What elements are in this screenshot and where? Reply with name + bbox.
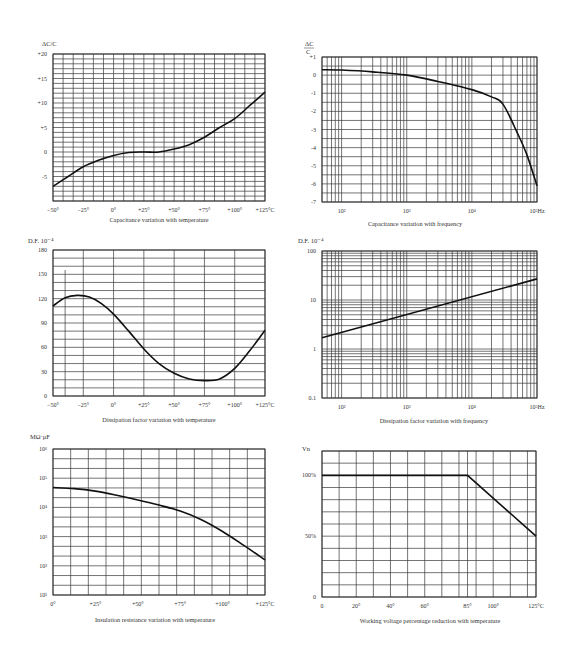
chart-capacitance-vs-frequency: 10²10³10⁴10⁵Hz+10-1-2-3-4-5-6-7 [310,54,545,214]
y-tick-label: 10³ [39,534,47,540]
data-curve [322,70,537,186]
datasheet-charts: −50°−25°0°+25°+50°+75°+100°+125°C+20+15+… [0,0,577,657]
x-tick-label: +125°C [256,601,275,607]
y-tick-label: 0.1 [309,395,317,401]
y-tick-label: -4 [311,145,316,151]
x-tick-label: 60° [421,603,430,609]
chart-df-vs-frequency: 10²10³10⁴10⁵Hz1001010.1 [307,248,545,410]
x-tick-label: +25° [138,402,150,408]
x-tick-label: 85° [463,603,472,609]
y-tick-label: 60 [41,344,47,350]
y-tick-label: 1 [313,346,316,352]
y-tick-label: 0 [44,393,47,399]
c5-y-axis-label: MΩ·μF [30,433,50,440]
c5-caption: Insulation resistance variation with tem… [95,616,215,623]
y-tick-label: 10² [39,563,47,569]
c2-y-axis-label-num: ΔC [305,40,314,47]
x-tick-label: +75° [174,601,186,607]
y-tick-label: 0 [313,594,316,600]
y-tick-label: -6 [311,181,316,187]
x-tick-label: 0 [321,603,324,609]
c3-y-axis-label: D.F. 10⁻⁴ [28,237,54,244]
data-curve [322,279,537,338]
x-tick-label: +25° [90,601,102,607]
x-tick-label: 10⁵Hz [529,208,544,214]
y-tick-label: -5 [311,163,316,169]
y-tick-label: 0 [44,149,47,155]
y-tick-label: +1 [310,54,316,60]
y-tick-label: 30 [41,369,47,375]
y-tick-label: -3 [311,127,316,133]
y-tick-label: 120 [38,296,47,302]
x-tick-label: 10² [338,404,346,410]
y-tick-label: -5 [42,174,47,180]
x-tick-label: −50° [47,402,59,408]
y-tick-label: +15 [38,76,47,82]
x-tick-label: +100° [227,207,242,213]
y-tick-label: 180 [38,247,47,253]
c1-y-axis-label: ΔC/C [42,40,57,47]
x-tick-label: −25° [77,207,89,213]
x-tick-label: 10² [338,208,346,214]
x-tick-label: +75° [199,402,211,408]
c4-y-axis-label: D.F. 10⁻⁴ [298,237,324,244]
y-tick-label: 10⁴ [39,504,47,510]
y-tick-label: 100 [307,248,316,254]
c6-caption: Working voltage percentage reduction wit… [360,617,501,624]
c2-caption: Capacitance variation with frequency [368,220,463,227]
x-tick-label: +100° [227,402,242,408]
x-tick-label: +125°C [256,207,275,213]
x-tick-label: −25° [77,402,89,408]
y-tick-label: +5 [41,125,47,131]
plot-frame [322,251,537,398]
x-tick-label: +75° [199,207,211,213]
x-tick-label: +50° [168,402,180,408]
x-tick-label: +100° [215,601,230,607]
x-tick-label: +50° [132,601,144,607]
c4-caption: Dissipation factor variation with freque… [380,417,489,424]
y-tick-label: 10⁵ [39,475,47,481]
x-tick-label: 0° [111,402,117,408]
y-tick-label: 10¹ [39,592,47,598]
x-tick-label: 100° [487,603,499,609]
c3-caption: Dissipation factor variation with temper… [102,416,216,423]
y-tick-label: -2 [311,108,316,114]
x-tick-label: 20° [352,603,361,609]
c2-y-axis-label-den: C [306,48,310,55]
y-tick-label: 10 [310,297,316,303]
y-tick-label: +20 [38,51,47,57]
x-tick-label: 40° [386,603,395,609]
x-tick-label: 10⁴ [468,404,476,410]
x-tick-label: 10⁴ [468,208,476,214]
x-tick-label: 10³ [403,208,411,214]
y-tick-label: -7 [311,199,316,205]
y-tick-label: 50% [305,533,316,539]
data-curve [53,92,265,186]
x-tick-label: +125°C [256,402,275,408]
x-tick-label: 125°C [528,603,543,609]
x-tick-label: 10⁵Hz [529,404,544,410]
data-curve [53,295,265,380]
y-tick-label: -1 [311,90,316,96]
c1-caption: Capacitance variation with temperature [109,216,208,223]
y-tick-label: 100% [302,472,316,478]
chart-df-vs-temperature: −50°−25°0°+25°+50°+75°+100°+125°C1801501… [38,247,274,408]
data-curve [322,475,536,536]
y-tick-label: 0 [313,72,316,78]
x-tick-label: 0° [111,207,117,213]
y-tick-label: +10 [38,100,47,106]
x-tick-label: +25° [138,207,150,213]
y-tick-label: 150 [38,271,47,277]
x-tick-label: +50° [168,207,180,213]
chart-insulation-resistance-vs-temperature: 0°+25°+50°+75°+100°+125°C10⁶10⁵10⁴10³10²… [39,446,274,607]
x-tick-label: 0° [50,601,56,607]
x-tick-label: −50° [47,207,59,213]
chart-capacitance-vs-temperature: −50°−25°0°+25°+50°+75°+100°+125°C+20+15+… [38,51,275,213]
chart-working-voltage-vs-temperature: 020°40°60°85°100°125°C100%50%0 [302,451,544,609]
y-tick-label: 90 [41,320,47,326]
c6-y-axis-label: Vn [302,445,311,452]
x-tick-label: 10³ [403,404,411,410]
y-tick-label: 10⁶ [39,446,47,452]
